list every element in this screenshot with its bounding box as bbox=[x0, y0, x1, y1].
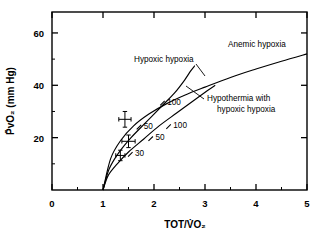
y-axis-tick-labels: 204060 bbox=[33, 28, 44, 144]
series-labels: Anemic hypoxiaHypoxic hypoxiaHypothermia… bbox=[134, 40, 286, 114]
curve-marker-tick bbox=[128, 152, 133, 156]
y-tick-label: 40 bbox=[33, 80, 44, 91]
figure-container: 012345 204060 100501005030 Anemic hypoxi… bbox=[0, 0, 323, 246]
x-tick-label: 0 bbox=[49, 198, 54, 209]
series-label-hypothermia-with-hypoxic-hypoxia-line2: hypoxic hypoxia bbox=[217, 105, 276, 114]
x-tick-label: 1 bbox=[100, 198, 106, 209]
data-curves bbox=[103, 54, 307, 190]
x-tick-label: 4 bbox=[253, 198, 259, 209]
x-axis-tick-labels: 012345 bbox=[49, 198, 310, 209]
curve-marker-tick bbox=[148, 136, 153, 140]
curve-anemic-hypoxia bbox=[103, 54, 307, 190]
x-axis-label: TOT/V̇O₂ bbox=[164, 219, 205, 230]
curve-annotation: 30 bbox=[135, 149, 145, 158]
x-tick-label: 3 bbox=[202, 198, 207, 209]
series-label-hypoxic-hypoxia: Hypoxic hypoxia bbox=[134, 55, 194, 64]
leader-line-hypoxic-hypoxia bbox=[196, 64, 205, 76]
chart-svg: 012345 204060 100501005030 Anemic hypoxi… bbox=[0, 0, 323, 246]
error-bar-point bbox=[119, 111, 131, 127]
y-tick-label: 20 bbox=[33, 133, 44, 144]
y-tick-label: 60 bbox=[33, 28, 44, 39]
curve-annotation: 50 bbox=[144, 122, 154, 131]
y-axis-label: P̄vO₂ (mm Hg) bbox=[5, 67, 16, 135]
curve-annotation: 100 bbox=[173, 121, 187, 130]
series-label-hypothermia-with-hypoxic-hypoxia: Hypothermia with bbox=[207, 94, 271, 103]
x-tick-label: 2 bbox=[151, 198, 156, 209]
error-bar-point bbox=[116, 150, 125, 160]
curve-annotation: 100 bbox=[167, 98, 181, 107]
curve-marker-tick bbox=[166, 124, 171, 128]
curve-annotation: 50 bbox=[155, 133, 165, 142]
series-label-anemic-hypoxia: Anemic hypoxia bbox=[228, 40, 286, 49]
x-tick-label: 5 bbox=[304, 198, 310, 209]
